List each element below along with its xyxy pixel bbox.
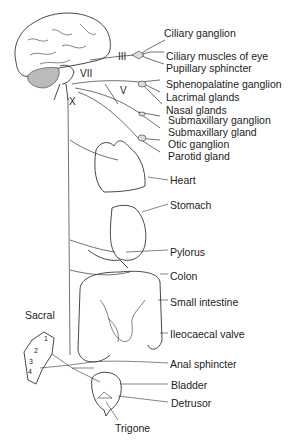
nerve-V-label: V — [120, 85, 127, 96]
sacral-segment-2: 2 — [34, 345, 38, 356]
label-sacral: Sacral — [25, 309, 55, 321]
sacral-nerves — [40, 354, 168, 382]
intestines — [78, 271, 162, 362]
label-parotid-gland: Parotid gland — [168, 150, 230, 162]
label-ileocaecal-valve: Ileocaecal valve — [170, 328, 245, 340]
label-lacrimal-glands: Lacrimal glands — [166, 91, 240, 103]
label-small-intestine: Small intestine — [170, 296, 238, 308]
label-ciliary-ganglion: Ciliary ganglion — [164, 27, 236, 39]
brain — [15, 13, 110, 100]
label-anal-sphincter: Anal sphincter — [170, 358, 237, 370]
label-detrusor: Detrusor — [171, 397, 211, 409]
label-submaxillary-gland: Submaxillary gland — [168, 126, 257, 138]
label-trigone: Trigone — [115, 422, 150, 434]
label-pylorus: Pylorus — [170, 246, 205, 258]
label-stomach: Stomach — [170, 199, 211, 211]
pylorus — [88, 250, 128, 268]
sacral-segment-4: 4 — [28, 366, 32, 377]
vagus-nerve — [68, 98, 130, 355]
heart — [95, 141, 145, 192]
label-heart: Heart — [170, 174, 196, 186]
nerve-III-label: III — [118, 51, 126, 62]
nerve-VII-label: VII — [80, 68, 92, 79]
sacral-segment-1: 1 — [44, 333, 48, 344]
ganglia — [132, 51, 146, 141]
label-otic-ganglion: Otic ganglion — [168, 138, 229, 150]
nerve-X-label: X — [69, 96, 76, 107]
label-submaxillary-ganglion: Submaxillary ganglion — [168, 114, 271, 126]
label-colon: Colon — [170, 270, 197, 282]
label-ciliary-muscles: Ciliary muscles of eye — [166, 50, 268, 62]
label-bladder: Bladder — [171, 379, 207, 391]
label-pupillary-sphincter: Pupillary sphincter — [166, 62, 252, 74]
label-sphenopalatine-ganglion: Sphenopalatine ganglion — [166, 78, 282, 90]
